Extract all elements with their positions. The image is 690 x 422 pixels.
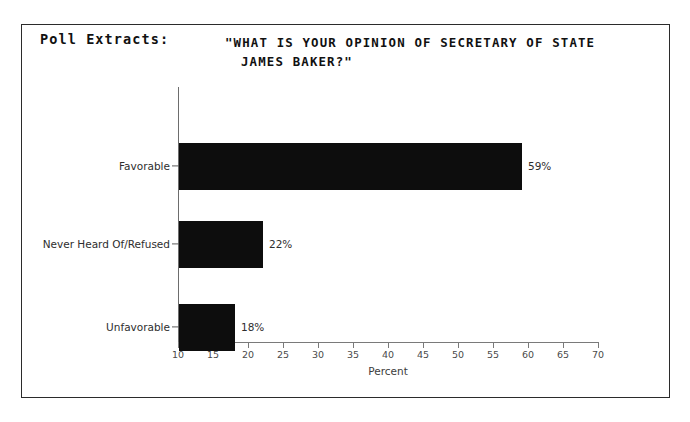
x-tick-55: [493, 342, 494, 348]
category-label-1: Never Heard Of/Refused: [43, 238, 170, 250]
x-tick-35: [353, 342, 354, 348]
category-tick-0: [172, 165, 179, 166]
x-tick-label-35: 35: [347, 349, 359, 360]
x-tick-45: [423, 342, 424, 348]
bar-never-heard-of-refused: [179, 221, 263, 268]
x-tick-label-15: 15: [207, 349, 219, 360]
x-tick-label-45: 45: [417, 349, 429, 360]
x-tick-70: [598, 342, 599, 348]
scan-bleed-text: _______ ______: [78, 0, 248, 6]
category-tick-1: [172, 243, 179, 244]
x-tick-50: [458, 342, 459, 348]
x-tick-label-50: 50: [452, 349, 464, 360]
category-label-2: Unfavorable: [106, 321, 170, 333]
bar-value-label-2: 18%: [241, 321, 264, 333]
bar-value-label-1: 22%: [269, 238, 292, 250]
category-label-0: Favorable: [119, 160, 170, 172]
bar-favorable: [179, 143, 522, 190]
x-tick-label-25: 25: [277, 349, 289, 360]
x-tick-40: [388, 342, 389, 348]
x-tick-label-30: 30: [312, 349, 324, 360]
x-tick-label-40: 40: [382, 349, 394, 360]
x-tick-60: [528, 342, 529, 348]
x-tick-20: [248, 342, 249, 348]
x-tick-label-20: 20: [242, 349, 254, 360]
bar-chart-plot: 10152025303540455055606570 Favorable59%N…: [22, 25, 671, 399]
x-tick-label-55: 55: [487, 349, 499, 360]
x-tick-25: [283, 342, 284, 348]
x-tick-65: [563, 342, 564, 348]
poll-extracts-panel: Poll Extracts: "WHAT IS YOUR OPINION OF …: [21, 24, 670, 398]
category-tick-2: [172, 326, 179, 327]
bar-value-label-0: 59%: [528, 160, 551, 172]
x-tick-label-65: 65: [557, 349, 569, 360]
x-axis-label: Percent: [178, 365, 598, 377]
x-tick-label-10: 10: [172, 349, 184, 360]
x-tick-label-60: 60: [522, 349, 534, 360]
x-tick-30: [318, 342, 319, 348]
x-tick-label-70: 70: [592, 349, 604, 360]
bar-unfavorable: [179, 304, 235, 351]
